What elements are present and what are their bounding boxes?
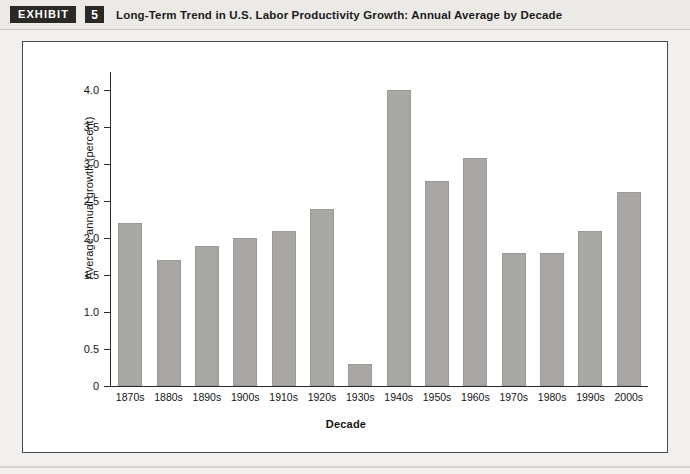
x-tick-label: 1970s xyxy=(499,391,528,403)
y-tick-mark xyxy=(104,90,111,91)
bar-slot xyxy=(341,72,379,386)
y-tick-mark xyxy=(104,201,111,202)
bar-1950s xyxy=(425,181,449,386)
y-tick-mark xyxy=(104,238,111,239)
bar-1900s xyxy=(233,238,257,386)
bar-slot xyxy=(571,72,609,386)
y-axis-tick-labels: 00.51.01.52.02.53.03.54.0 xyxy=(53,42,99,454)
bar-1990s xyxy=(578,231,602,386)
x-axis-title: Decade xyxy=(23,418,669,430)
x-tick-label: 1880s xyxy=(154,391,183,403)
exhibit-title: Long-Term Trend in U.S. Labor Productivi… xyxy=(116,9,562,21)
bar-slot xyxy=(533,72,571,386)
y-tick-label: 1.0 xyxy=(53,306,99,318)
y-tick-mark xyxy=(104,349,111,350)
x-tick-label: 1930s xyxy=(346,391,375,403)
x-tick-label: 1950s xyxy=(423,391,452,403)
exhibit-tag-label: EXHIBIT xyxy=(10,6,76,23)
exhibit-header: EXHIBIT 5 Long-Term Trend in U.S. Labor … xyxy=(0,0,690,30)
bar-slot xyxy=(380,72,418,386)
x-tick-label: 1900s xyxy=(231,391,260,403)
y-tick-label: 1.5 xyxy=(53,269,99,281)
bar-1930s xyxy=(348,364,372,386)
x-tick-label: 1960s xyxy=(461,391,490,403)
y-tick-label: 2.5 xyxy=(53,195,99,207)
bar-slot xyxy=(495,72,533,386)
bar-1970s xyxy=(502,253,526,386)
bar-1940s xyxy=(387,90,411,386)
x-tick-label: 1990s xyxy=(576,391,605,403)
bar-slot xyxy=(456,72,494,386)
x-tick-label: 1940s xyxy=(384,391,413,403)
bar-slot xyxy=(188,72,226,386)
bar-slot xyxy=(610,72,648,386)
x-tick-label: 1870s xyxy=(116,391,145,403)
y-tick-label: 3.5 xyxy=(53,121,99,133)
y-tick-mark xyxy=(104,164,111,165)
chart-frame: Average annual growth (percent) 00.51.01… xyxy=(22,41,668,453)
bar-slot xyxy=(111,72,149,386)
bar-1870s xyxy=(118,223,142,386)
x-tick-label: 1890s xyxy=(193,391,222,403)
bar-slot xyxy=(303,72,341,386)
x-tick-label: 2000s xyxy=(615,391,644,403)
bar-1880s xyxy=(157,260,181,386)
y-tick-label: 0 xyxy=(53,380,99,392)
bar-slot xyxy=(149,72,187,386)
y-tick-label: 0.5 xyxy=(53,343,99,355)
plot-area: Average annual growth (percent) 00.51.01… xyxy=(23,42,669,454)
x-tick-label: 1920s xyxy=(308,391,337,403)
bars-container xyxy=(111,72,648,386)
y-tick-mark xyxy=(104,127,111,128)
y-tick-label: 2.0 xyxy=(53,232,99,244)
y-tick-mark xyxy=(104,386,111,387)
y-tick-label: 3.0 xyxy=(53,158,99,170)
y-tick-label: 4.0 xyxy=(53,84,99,96)
bar-1920s xyxy=(310,209,334,386)
x-axis-line xyxy=(110,386,648,387)
exhibit-page: EXHIBIT 5 Long-Term Trend in U.S. Labor … xyxy=(0,0,690,474)
y-tick-mark xyxy=(104,312,111,313)
bar-slot xyxy=(418,72,456,386)
x-axis-tick-labels: 1870s1880s1890s1900s1910s1920s1930s1940s… xyxy=(111,391,648,409)
footer-divider xyxy=(0,466,690,468)
y-tick-mark xyxy=(104,275,111,276)
bar-1890s xyxy=(195,246,219,386)
bar-1980s xyxy=(540,253,564,386)
exhibit-number-badge: 5 xyxy=(85,6,104,23)
bar-2000s xyxy=(617,192,641,386)
x-tick-label: 1910s xyxy=(269,391,298,403)
x-tick-label: 1980s xyxy=(538,391,567,403)
bar-1960s xyxy=(463,158,487,386)
bar-1910s xyxy=(272,231,296,386)
bar-slot xyxy=(226,72,264,386)
bar-slot xyxy=(264,72,302,386)
